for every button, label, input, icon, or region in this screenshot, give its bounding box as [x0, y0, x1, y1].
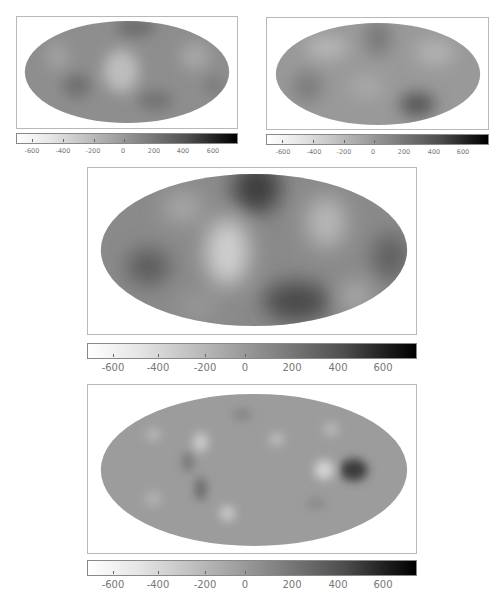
sky-map-frame-3 — [87, 167, 417, 335]
colorbar-4 — [87, 560, 417, 576]
colorbar-1 — [16, 133, 238, 144]
tick-label: -200 — [194, 579, 217, 590]
mollweide-map-4 — [88, 385, 416, 553]
tick-label: -400 — [147, 579, 170, 590]
tick-label: 200 — [282, 362, 301, 373]
tick-label: -200 — [86, 147, 101, 155]
tick-label: 600 — [207, 147, 219, 155]
colorbar-2 — [266, 134, 489, 145]
tick-label: 0 — [242, 579, 248, 590]
tick-label: 600 — [373, 579, 392, 590]
tick-label: 600 — [373, 362, 392, 373]
tick-label: 200 — [398, 148, 410, 156]
mollweide-map-1 — [17, 17, 237, 128]
tick-label: 400 — [177, 147, 189, 155]
tick-label: 600 — [457, 148, 469, 156]
sky-map-frame-4 — [87, 384, 417, 554]
tick-label: -200 — [337, 148, 352, 156]
tick-label: -600 — [102, 362, 125, 373]
mollweide-map-2 — [267, 18, 488, 129]
tick-label: -200 — [194, 362, 217, 373]
tick-label: 0 — [121, 147, 125, 155]
tick-label: 400 — [328, 362, 347, 373]
tick-label: -600 — [276, 148, 291, 156]
tick-label: -400 — [56, 147, 71, 155]
tick-label: 400 — [328, 579, 347, 590]
tick-label: -400 — [147, 362, 170, 373]
sky-map-frame-1 — [16, 16, 238, 129]
mollweide-map-3 — [88, 168, 416, 334]
tick-label: -400 — [307, 148, 322, 156]
tick-label: 200 — [148, 147, 160, 155]
colorbar-3 — [87, 343, 417, 359]
tick-label: -600 — [102, 579, 125, 590]
tick-label: 0 — [242, 362, 248, 373]
tick-label: 0 — [371, 148, 375, 156]
tick-label: 200 — [282, 579, 301, 590]
tick-label: 400 — [428, 148, 440, 156]
sky-map-frame-2 — [266, 17, 489, 130]
tick-label: -600 — [25, 147, 40, 155]
